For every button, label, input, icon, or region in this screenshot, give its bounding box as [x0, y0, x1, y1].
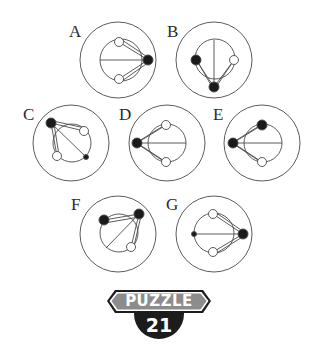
figure-label-b: B	[167, 23, 178, 40]
open-circle	[209, 210, 218, 219]
figure-label-e: E	[213, 106, 223, 123]
figure-e	[224, 105, 300, 181]
figure-c	[33, 105, 109, 181]
filled-circle	[191, 55, 201, 65]
open-circle	[127, 243, 136, 252]
open-circle	[162, 121, 171, 130]
open-circle	[209, 248, 218, 257]
filled-circle	[143, 55, 153, 65]
small-filled-circle	[192, 232, 197, 237]
badge-title: PUZZLE	[106, 292, 212, 310]
open-circle	[80, 127, 89, 136]
small-filled-circle	[84, 155, 89, 160]
filled-circle	[46, 118, 56, 128]
open-circle	[115, 75, 124, 84]
figure-label-a: A	[69, 23, 81, 40]
open-circle	[230, 56, 239, 65]
filled-circle	[228, 138, 238, 148]
figure-d	[129, 105, 205, 181]
filled-circle	[209, 82, 219, 92]
figure-label-c: C	[23, 106, 34, 123]
figure-f	[80, 196, 156, 272]
figure-label-g: G	[166, 196, 178, 213]
open-circle	[115, 38, 124, 47]
filled-circle	[238, 229, 248, 239]
figure-a	[80, 22, 156, 98]
filled-circle	[134, 209, 144, 219]
figure-g	[176, 196, 252, 272]
open-circle	[53, 152, 62, 161]
open-circle	[258, 158, 267, 167]
figure-b	[176, 22, 252, 98]
badge-number: 21	[106, 314, 212, 336]
filled-circle	[132, 138, 142, 148]
open-circle	[162, 158, 171, 167]
figure-label-d: D	[119, 106, 131, 123]
filled-circle	[257, 120, 267, 130]
puzzle-badge: PUZZLE 21	[106, 288, 212, 346]
filled-circle	[99, 215, 109, 225]
figure-label-f: F	[71, 196, 80, 213]
